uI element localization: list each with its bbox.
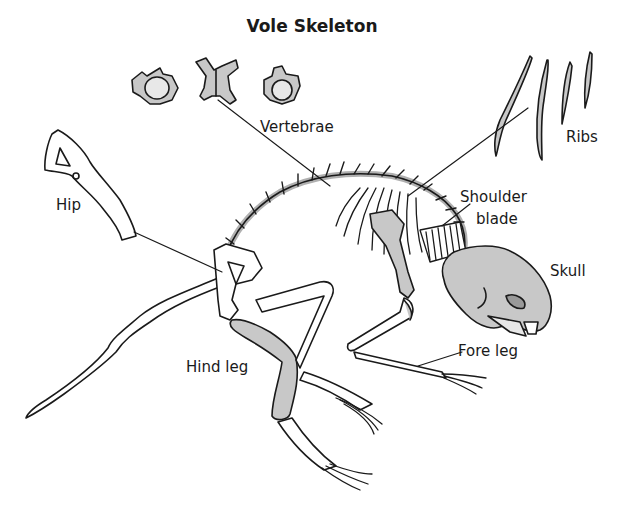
leader-lines (134, 100, 528, 366)
shoulder-blade (370, 210, 414, 298)
fore-foot-claws (442, 374, 486, 394)
label-hind-leg: Hind leg (186, 358, 248, 377)
label-vertebrae: Vertebrae (260, 118, 334, 137)
pelvis (214, 244, 262, 320)
label-shoulder-blade-line1: Shoulder (460, 188, 527, 207)
tail (26, 278, 222, 418)
vertebra-2 (196, 58, 238, 104)
label-shoulder-blade-line2: blade (476, 210, 518, 229)
hind-leg (230, 282, 372, 470)
detached-hip-bone (45, 130, 136, 240)
label-hip: Hip (56, 196, 81, 215)
label-ribs: Ribs (566, 128, 598, 147)
label-fore-leg: Fore leg (458, 342, 518, 361)
hind-foot-claws (322, 398, 382, 490)
vole-skeleton-diagram: Vole Skeleton Vertebrae Ribs Hip Shoulde… (0, 0, 624, 515)
diagram-title: Vole Skeleton (0, 16, 624, 36)
skull (442, 246, 551, 336)
vertebra-1 (132, 68, 178, 104)
vertebra-3 (264, 66, 300, 104)
fore-leg (348, 298, 446, 378)
skeleton-illustration (0, 0, 624, 515)
label-skull: Skull (550, 262, 586, 281)
